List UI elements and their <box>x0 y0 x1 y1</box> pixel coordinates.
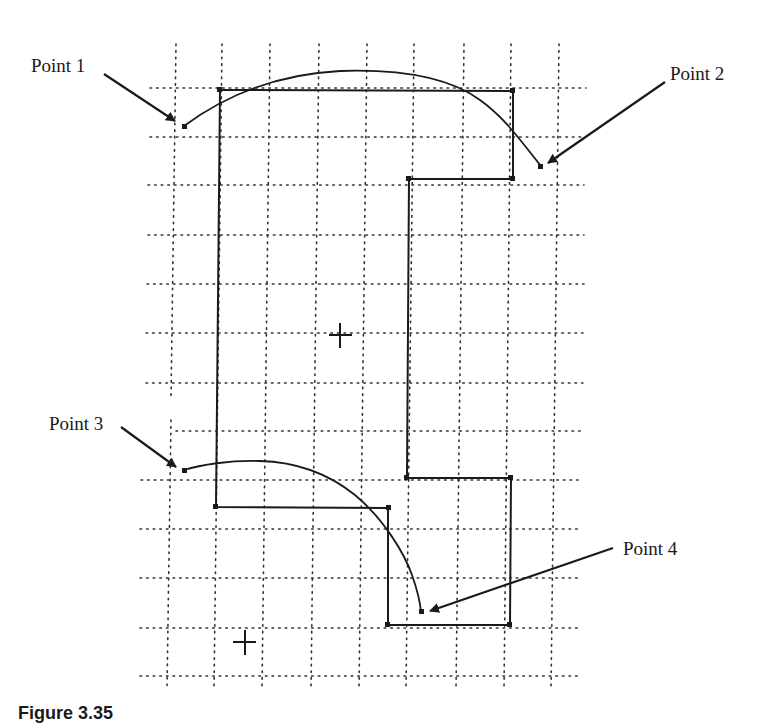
vertex <box>510 88 515 93</box>
vertex <box>213 504 218 509</box>
point-1-marker <box>182 124 187 129</box>
vertex <box>406 176 411 181</box>
point-4-marker <box>419 609 424 614</box>
arrow-point-3 <box>121 427 176 467</box>
dotted-grid <box>140 44 586 690</box>
arcs <box>184 71 541 612</box>
grid-column <box>359 44 367 690</box>
polygon-path <box>216 90 513 625</box>
polygon-vertices <box>213 87 515 627</box>
arrow-point-1 <box>104 74 175 121</box>
vertex <box>217 87 222 92</box>
point-2-label: Point 2 <box>670 63 724 85</box>
crosshair-icon <box>329 323 352 348</box>
point-3-label: Point 3 <box>49 413 103 435</box>
arc-bottom <box>184 461 421 612</box>
vertex <box>508 475 513 480</box>
vertex <box>507 622 512 627</box>
arc-top <box>184 71 541 166</box>
point-2-marker <box>538 164 543 169</box>
vertex <box>385 622 390 627</box>
vertex <box>404 475 409 480</box>
crosshair-icon <box>233 630 256 655</box>
arrow-point-2 <box>548 82 665 163</box>
grid-column <box>456 44 464 690</box>
grid-column <box>551 44 559 690</box>
grid-column <box>262 44 270 690</box>
point-1-label: Point 1 <box>31 55 85 77</box>
vertex <box>510 176 515 181</box>
grid-column <box>171 44 176 398</box>
crosshairs <box>233 323 352 655</box>
grid-column <box>311 44 319 690</box>
leader-arrows <box>104 74 665 611</box>
shape-outline <box>216 90 513 625</box>
point-4-label: Point 4 <box>623 538 677 560</box>
point-3-marker <box>182 468 187 473</box>
vertex <box>386 505 391 510</box>
figure-caption: Figure 3.35 <box>18 703 113 724</box>
